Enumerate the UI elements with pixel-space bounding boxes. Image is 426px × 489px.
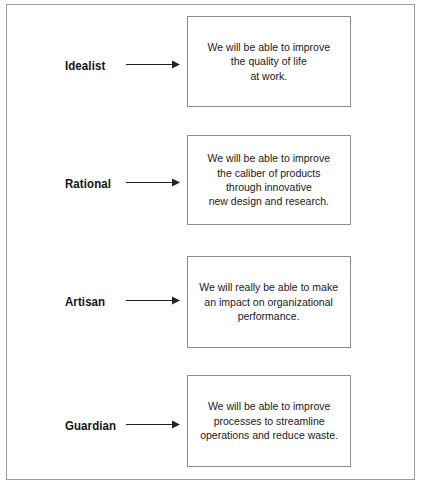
row-label-rational-text: Rational — [30, 177, 111, 191]
row-label-artisan-text: Artisan — [30, 295, 105, 309]
message-text-rational: We will be able to improve the caliber o… — [202, 151, 336, 209]
arrow-right-icon — [126, 177, 180, 188]
row-label-guardian-text: Guardian — [30, 419, 116, 433]
row-label-guardian: Guardian — [30, 419, 131, 433]
message-text-guardian: We will be able to improve processes to … — [194, 399, 343, 442]
message-box-artisan: We will really be able to make an impact… — [187, 256, 351, 348]
row-label-rational: Rational — [30, 177, 131, 191]
message-text-artisan: We will really be able to make an impact… — [194, 280, 344, 323]
figure-row-rational: Rational We will be able to improve the … — [0, 0, 426, 122]
temperament-statements-figure: Idealist We will be able to improve the … — [0, 0, 426, 489]
message-box-rational: We will be able to improve the caliber o… — [187, 135, 351, 225]
arrow-right-icon — [126, 419, 180, 430]
figure-rows: Idealist We will be able to improve the … — [0, 0, 426, 489]
row-label-artisan: Artisan — [30, 295, 131, 309]
message-box-guardian: We will be able to improve processes to … — [187, 375, 351, 467]
arrow-right-icon — [126, 295, 180, 306]
